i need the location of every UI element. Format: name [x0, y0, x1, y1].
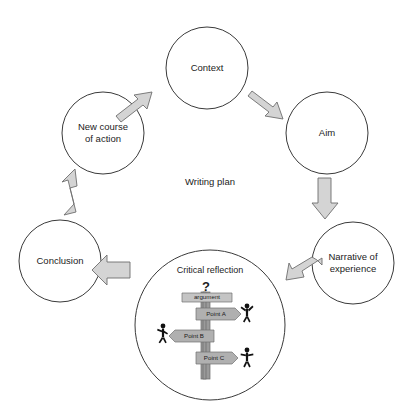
arrow-aim-to-narrative: [312, 178, 338, 219]
sign-argument[interactable]: argument: [182, 293, 232, 302]
node-narrative-of-experience-label-line-2: experience: [330, 263, 376, 274]
node-context[interactable]: Context: [166, 27, 248, 109]
arrow-context-to-aim: [248, 91, 283, 119]
sign-point-b-label: Point B: [184, 332, 204, 339]
sign-point-a-label: Point A: [206, 310, 226, 317]
sign-point-c[interactable]: Point C: [196, 352, 238, 364]
node-aim-label: Aim: [319, 127, 335, 138]
node-narrative-of-experience[interactable]: Narrative of experience: [312, 222, 394, 304]
sign-point-c-label: Point C: [204, 354, 225, 361]
sign-point-b[interactable]: Point B: [169, 330, 214, 342]
arrow-conclusion-to-new-course: [62, 169, 77, 215]
sign-argument-label: argument: [194, 293, 220, 300]
center-label: Writing plan: [185, 176, 235, 187]
critical-reflection-title: Critical reflection: [177, 265, 244, 275]
node-conclusion[interactable]: Conclusion: [19, 220, 101, 302]
node-narrative-of-experience-label-line-1: Narrative of: [328, 251, 377, 262]
node-conclusion-label: Conclusion: [37, 255, 84, 266]
diagram-canvas: Context Aim Narrative of experience Conc…: [0, 0, 413, 415]
node-new-course-of-action-label-line-2: of action: [85, 133, 121, 144]
node-context-label: Context: [191, 62, 224, 73]
node-aim[interactable]: Aim: [286, 92, 368, 174]
sign-point-a[interactable]: Point A: [196, 308, 241, 320]
writing-plan-cycle-diagram: Context Aim Narrative of experience Conc…: [0, 0, 413, 415]
